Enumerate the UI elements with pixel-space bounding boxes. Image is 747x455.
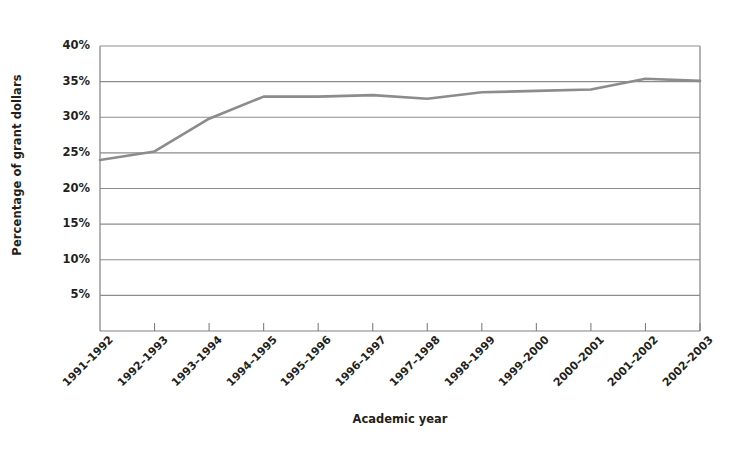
x-axis-tick-label: 1991–1992 [60, 333, 116, 389]
x-axis-tick-label: 1996–1997 [333, 333, 389, 389]
x-axis-tick-label: 1992–1993 [115, 333, 171, 389]
x-axis-tick-label: 1997–1998 [387, 333, 443, 389]
y-axis-tick-label: 30% [62, 112, 90, 124]
y-axis-tick-label: 40% [62, 40, 90, 52]
y-axis-title-label: Percentage of grant dollars [10, 74, 24, 255]
plot-svg [100, 46, 700, 331]
x-axis-title: Academic year [100, 412, 700, 426]
y-axis-tick-label: 10% [62, 254, 90, 266]
y-axis-title: Percentage of grant dollars [0, 0, 34, 330]
x-axis-tick-label: 2000–2001 [551, 333, 607, 389]
x-axis-tick-label: 2001–2002 [605, 333, 661, 389]
y-axis-tick-label: 20% [62, 183, 90, 195]
y-axis-tick-label: 25% [62, 147, 90, 159]
y-axis-tick-labels: 5%10%15%20%25%30%35%40% [34, 0, 96, 340]
x-axis-tick-labels: 1991–19921992–19931993–19941994–19951995… [0, 336, 747, 406]
x-axis-tick-label: 1993–1994 [169, 333, 225, 389]
line-chart-figure: Percentage of grant dollars 5%10%15%20%2… [0, 0, 747, 455]
x-axis-tick-label: 2002–2003 [660, 333, 716, 389]
x-axis-tick-label: 1994–1995 [224, 333, 280, 389]
y-axis-tick-label: 15% [62, 218, 90, 230]
y-axis-tick-label: 35% [62, 76, 90, 88]
plot-area [100, 46, 700, 331]
gridlines-group [100, 82, 700, 296]
x-axis-tick-label: 1998–1999 [442, 333, 498, 389]
x-axis-tick-label: 1999–2000 [496, 333, 552, 389]
x-axis-tick-label: 1995–1996 [278, 333, 334, 389]
data-series-line [100, 79, 700, 160]
y-axis-tick-label: 5% [70, 290, 90, 302]
x-axis-tickmarks-group [155, 323, 700, 331]
